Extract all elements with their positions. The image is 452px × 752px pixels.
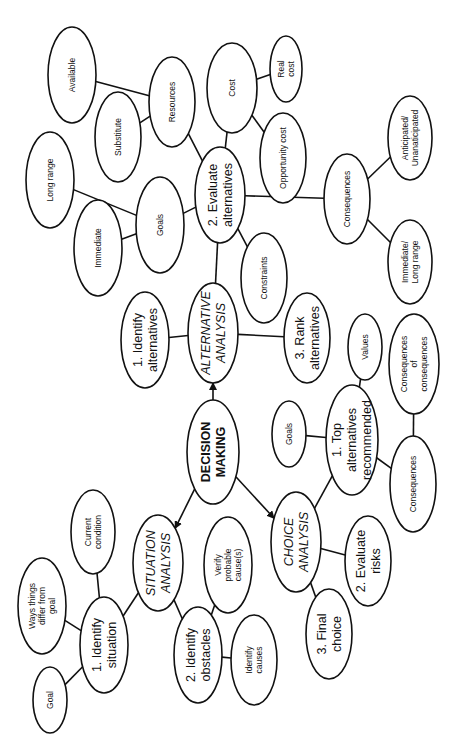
edge-resources-to-substitute — [140, 116, 150, 123]
node-label: Substitute — [113, 118, 123, 156]
node-label: consequences — [419, 337, 429, 392]
edge-topalt-to-consC — [377, 458, 392, 469]
node-label: 3. Final — [315, 614, 329, 655]
node-curcond: Currentcondition — [71, 490, 115, 574]
node-label: 1. Identify — [90, 617, 104, 672]
node-label: situation — [105, 622, 119, 669]
node-idalt: 1. Identifyalternatives — [121, 292, 169, 388]
node-label: ANALYSIS — [214, 302, 228, 364]
node-label: of — [409, 360, 419, 368]
node-label: ALTERNATIVE — [199, 291, 213, 376]
node-label: Real — [276, 60, 286, 78]
node-label: alternatives — [221, 163, 235, 227]
node-consofcons: Consequencesofconsequences — [389, 314, 439, 414]
edge-cost-to-oppcost — [252, 115, 264, 132]
edge-topalt-to-values — [359, 379, 360, 387]
node-goalsC: Goals — [272, 401, 306, 467]
node-label: risks — [369, 548, 383, 574]
edge-sit-to-idsit — [123, 593, 138, 616]
node-available: Available — [48, 27, 96, 123]
node-label: Immediate — [93, 228, 103, 268]
node-immediate: Immediate — [74, 200, 122, 296]
node-label: alternatives — [345, 408, 359, 472]
node-label: Long range — [410, 240, 420, 283]
edge-idobs-to-verify — [211, 605, 214, 615]
node-label: 2. Identify — [184, 627, 198, 682]
node-label: Goal — [45, 691, 55, 709]
node-label: Anticipated/ — [400, 115, 410, 160]
node-label: Ways things — [27, 583, 37, 629]
node-label: alternatives — [146, 308, 160, 372]
edge-evalt-to-cost — [225, 132, 227, 148]
node-substitute: Substitute — [95, 92, 141, 182]
node-consA: Consequences — [324, 154, 370, 244]
edge-cho-to-final — [311, 583, 316, 598]
node-constraints: Constraints — [241, 233, 287, 323]
node-sit: SITUATIONANALYSIS — [133, 515, 183, 611]
node-label: causes — [254, 647, 264, 674]
edge-topalt-to-goalsC — [306, 436, 326, 438]
node-alt: ALTERNATIVEANALYSIS — [188, 283, 238, 383]
node-label: 2. Evaluate — [354, 530, 368, 593]
node-cho: CHOICEANALYSIS — [271, 492, 321, 592]
edge-goalsA-to-immediate — [122, 234, 137, 239]
edge-evalt-to-resources — [188, 134, 202, 161]
node-label: Cost — [227, 79, 237, 97]
node-label: cost — [286, 61, 296, 77]
edge-root-to-cho-arrow — [236, 477, 274, 518]
edge-alt-to-rank — [238, 334, 284, 336]
node-label: Constraints — [259, 257, 269, 300]
node-verify: Verifyprobablecause(s) — [204, 517, 252, 613]
node-label: probable — [223, 548, 233, 581]
node-label: choice — [330, 616, 344, 652]
node-oppcost: Opportunity cost — [260, 113, 306, 203]
node-label: differ from — [37, 587, 47, 625]
node-label: Unanaticipated — [410, 109, 420, 166]
node-label: Goals — [155, 214, 165, 236]
node-label: Verify — [213, 554, 223, 576]
edge-idsit-to-goal — [65, 667, 83, 685]
node-cost: Cost — [207, 43, 257, 133]
node-longrange: Long range — [26, 132, 74, 228]
edge-consA-to-immlong — [367, 219, 390, 242]
node-goal: Goal — [33, 667, 67, 733]
edge-sit-to-idobs — [174, 600, 182, 619]
node-realcost: Realcost — [270, 36, 302, 102]
edge-consA-to-antic — [368, 157, 391, 179]
node-label: CHOICE — [282, 517, 296, 566]
node-label: 1. Top — [330, 423, 344, 457]
node-rank: 3. Rankalternatives — [284, 293, 330, 383]
node-label: Resources — [167, 82, 177, 123]
edge-cho-to-topalt — [314, 476, 332, 508]
node-label: cause(s) — [233, 549, 243, 582]
edge-idsit-to-ways — [65, 620, 81, 630]
node-label: Long range — [45, 158, 55, 201]
edge-cho-to-evrisk — [321, 549, 345, 555]
node-label: recommended — [360, 400, 374, 480]
node-immlong: Immediate/Long range — [388, 220, 432, 304]
node-label: ANALYSIS — [297, 511, 311, 573]
node-consC: Consequences — [390, 436, 436, 532]
edge-idsit-to-curcond — [97, 573, 99, 598]
node-label: 1. Identify — [131, 312, 145, 367]
node-evrisk: 2. Evaluaterisks — [345, 516, 391, 606]
edge-evalt-to-constraints — [238, 229, 248, 247]
edge-evalt-to-goalsA — [183, 207, 196, 213]
node-idobs: 2. Identifyobstacles — [174, 607, 222, 703]
edge-root-to-sit-arrow — [175, 489, 194, 528]
node-label: Values — [360, 334, 370, 359]
node-topalt: 1. Topalternativesrecommended — [326, 385, 378, 495]
node-label: 2. Evaluate — [206, 164, 220, 227]
node-label: Identify — [244, 646, 254, 674]
nodes-layer: DECISIONMAKINGALTERNATIVEANALYSISSITUATI… — [18, 27, 439, 733]
decision-making-diagram: DECISIONMAKINGALTERNATIVEANALYSISSITUATI… — [0, 0, 452, 752]
node-idsit: 1. Identifysituation — [80, 597, 128, 693]
node-label: Goals — [284, 423, 294, 445]
node-root: DECISIONMAKING — [187, 400, 239, 504]
node-resources: Resources — [149, 57, 195, 147]
node-label: MAKING — [214, 427, 228, 478]
node-label: Consequences — [399, 336, 409, 393]
node-label: Current — [83, 517, 93, 546]
node-label: Immediate/ — [400, 240, 410, 283]
node-label: condition — [93, 515, 103, 549]
